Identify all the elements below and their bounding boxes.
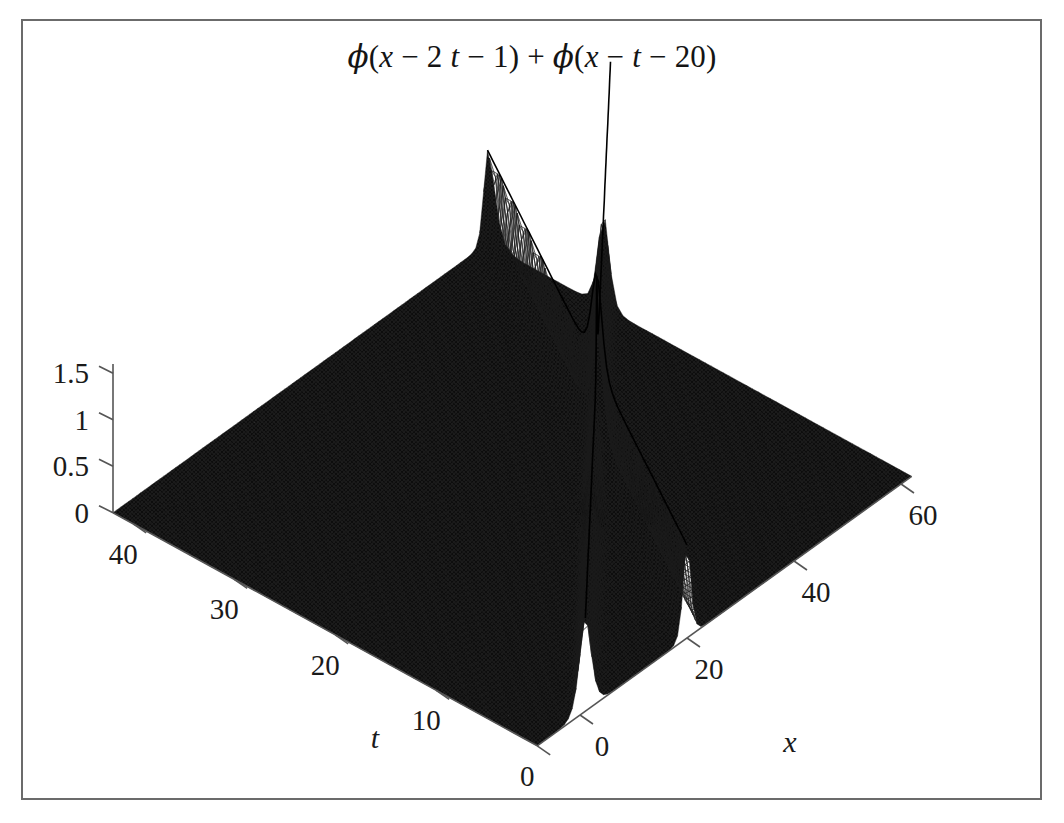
x-tick-label: 20 <box>695 653 724 685</box>
surface-body <box>113 150 912 746</box>
x-axis-name: x <box>782 725 797 758</box>
x-tick-label: 60 <box>909 499 938 531</box>
z-axis-tick <box>99 366 113 373</box>
z-tick-label: 0 <box>75 497 90 529</box>
z-axis-tick <box>99 459 113 466</box>
t-axis-name: t <box>371 721 380 754</box>
x-axis-tick <box>687 638 700 647</box>
t-tick-label: 20 <box>311 649 340 681</box>
surface-mesh <box>113 62 912 746</box>
t-tick-label: 30 <box>210 593 239 625</box>
t-tick-label: 0 <box>520 760 535 792</box>
x-axis-tick <box>580 715 593 724</box>
x-axis-tick <box>794 561 807 570</box>
t-tick-label: 10 <box>412 704 441 736</box>
x-tick-label: 0 <box>595 730 610 762</box>
z-axis-tick <box>99 413 113 420</box>
x-axis-tick <box>901 484 914 493</box>
figure-canvas: ϕ(x − 2 t − 1) + ϕ(x − t − 20) 0204060x0… <box>0 0 1064 823</box>
z-tick-label: 0.5 <box>53 450 89 482</box>
z-axis-tick <box>99 506 113 513</box>
surface-plot: 0204060x010203040t00.511.5 <box>0 0 1064 823</box>
z-tick-label: 1.5 <box>53 357 89 389</box>
z-tick-label: 1 <box>75 404 90 436</box>
x-tick-label: 40 <box>802 576 831 608</box>
t-axis-tick <box>537 746 550 755</box>
t-tick-label: 40 <box>109 538 138 570</box>
